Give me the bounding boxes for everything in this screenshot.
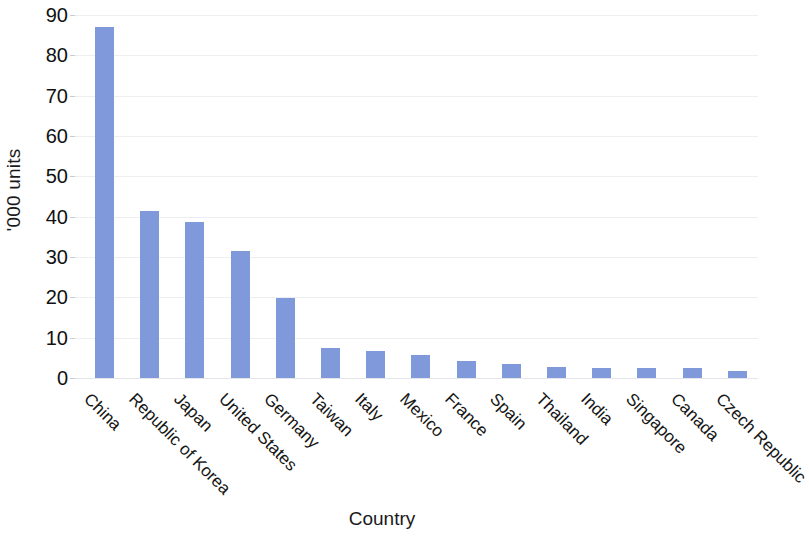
y-axis-tick-label: 60: [10, 126, 68, 146]
bar: [411, 355, 430, 378]
bar: [231, 251, 250, 378]
bar: [276, 298, 295, 378]
bar: [502, 364, 521, 378]
y-axis-tick-label: 30: [10, 247, 68, 267]
bar: [366, 351, 385, 378]
y-axis-tick-label: 80: [10, 45, 68, 65]
bar: [457, 361, 476, 378]
x-axis-tick-label: Mexico: [397, 390, 447, 440]
bar: [95, 27, 114, 378]
y-axis-tick-label: 40: [10, 207, 68, 227]
x-axis-tick-label: China: [80, 390, 123, 433]
x-axis-title-label: Country: [349, 508, 416, 529]
y-axis-tick-label: 90: [10, 5, 68, 25]
x-axis-tick-labels: ChinaRepublic of KoreaJapanUnited States…: [75, 380, 758, 500]
bar: [547, 367, 566, 378]
bar: [321, 348, 340, 378]
x-axis-tick-label: Italy: [352, 390, 386, 424]
bar: [185, 222, 204, 378]
x-axis-tick-label: Czech Republic: [713, 390, 809, 486]
bar: [637, 368, 656, 378]
x-axis-tick-label: France: [442, 390, 491, 439]
bar: [592, 368, 611, 378]
y-axis-tick-label: 0: [10, 368, 68, 388]
bar: [683, 368, 702, 378]
bars-layer: [75, 15, 758, 378]
y-axis-tick-label: 70: [10, 86, 68, 106]
plot-area: [75, 15, 758, 378]
x-axis-tick-label: Spain: [487, 390, 530, 433]
x-axis-tick-label: India: [578, 390, 616, 428]
y-axis-tick-labels: 0102030405060708090: [0, 15, 68, 378]
y-axis-tick-label: 20: [10, 287, 68, 307]
y-axis-tick-label: 10: [10, 328, 68, 348]
x-axis-title: Country: [0, 508, 764, 530]
y-axis-tick-label: 50: [10, 166, 68, 186]
gridline: [75, 378, 758, 379]
bar: [728, 371, 747, 378]
bar: [140, 211, 159, 378]
y-axis-tick-mark: [70, 378, 75, 379]
